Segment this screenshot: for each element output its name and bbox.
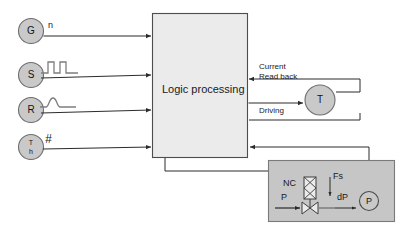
pulse-wave-glyph: [40, 98, 76, 107]
pressure-gauge-label: P: [364, 197, 374, 206]
input-line-s: [41, 75, 151, 78]
valve-assembly-panel: [269, 161, 395, 222]
logic-processing-label: Logic processing: [162, 84, 245, 95]
signal-label-n: n: [48, 21, 53, 30]
signal-label-hash: #: [45, 133, 52, 145]
force-label-fs: Fs: [333, 172, 343, 181]
input-node-r-label: R: [25, 105, 37, 115]
input-line-r: [41, 110, 151, 113]
readback-label-line2: Read back: [259, 73, 297, 81]
solenoid-coil: [304, 177, 316, 199]
input-line-th: [43, 147, 151, 149]
input-node-g-label: G: [25, 26, 37, 36]
delta-pressure-label-dp: dP: [337, 193, 348, 202]
driving-label: Driving: [259, 107, 284, 115]
input-node-s-label: S: [25, 70, 37, 80]
input-node-th-sublabel: h: [25, 148, 37, 155]
diagram-canvas: G S R T h n # Logic processing T Current…: [0, 0, 406, 237]
solenoid-label-nc: NC: [283, 179, 296, 188]
input-node-th-label: T: [25, 139, 37, 146]
sensor-t-label: T: [314, 95, 326, 105]
square-wave-glyph: [41, 62, 78, 73]
readback-label-line1: Current: [259, 63, 286, 71]
inlet-label-p: P: [281, 193, 287, 202]
